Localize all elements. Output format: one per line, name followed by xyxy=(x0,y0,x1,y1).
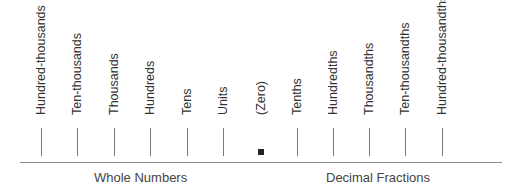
column-label: Hundred-thousandths xyxy=(436,0,448,115)
tick-mark xyxy=(114,128,115,156)
column-hundredths: Hundredths xyxy=(333,0,334,160)
column-label: Thousandths xyxy=(363,43,375,115)
tick-mark xyxy=(150,128,151,156)
column-label: (Zero) xyxy=(255,81,267,115)
group-label-decimal-fractions: Decimal Fractions xyxy=(326,170,430,185)
column-ten-thousands: Ten-thousands xyxy=(77,0,78,160)
tick-mark xyxy=(369,128,370,156)
column-label: Tenths xyxy=(291,78,303,115)
column-tenths: Tenths xyxy=(297,0,298,160)
column-label: Hundred-thousands xyxy=(35,5,47,115)
group-label-whole-numbers: Whole Numbers xyxy=(94,170,187,185)
column-thousands: Thousands xyxy=(114,0,115,160)
column-tens: Tens xyxy=(187,0,188,160)
tick-mark xyxy=(297,128,298,156)
column-ten-thousandths: Ten-thousandths xyxy=(405,0,406,160)
column-thousandths: Thousandths xyxy=(369,0,370,160)
tick-mark xyxy=(223,128,224,156)
tick-mark xyxy=(405,128,406,156)
tick-mark xyxy=(187,128,188,156)
column-hundreds: Hundreds xyxy=(150,0,151,160)
baseline-rule xyxy=(20,162,502,163)
column-hundred-thousandths: Hundred-thousandths xyxy=(442,0,443,160)
column-label: Ten-thousands xyxy=(71,33,83,115)
tick-mark xyxy=(77,128,78,156)
column-label: Hundreds xyxy=(144,61,156,115)
tick-mark xyxy=(41,128,42,156)
column-hundred-thousands: Hundred-thousands xyxy=(41,0,42,160)
column-units: Units xyxy=(223,0,224,160)
decimal-point-square-icon xyxy=(258,149,264,155)
column-label: Thousands xyxy=(108,53,120,115)
column-label: Units xyxy=(217,87,229,115)
column-label: Hundredths xyxy=(327,50,339,115)
column-label: Ten-thousandths xyxy=(399,23,411,115)
column-zero: (Zero) xyxy=(261,0,262,160)
tick-mark xyxy=(333,128,334,156)
column-label: Tens xyxy=(181,89,193,115)
tick-mark xyxy=(442,128,443,156)
